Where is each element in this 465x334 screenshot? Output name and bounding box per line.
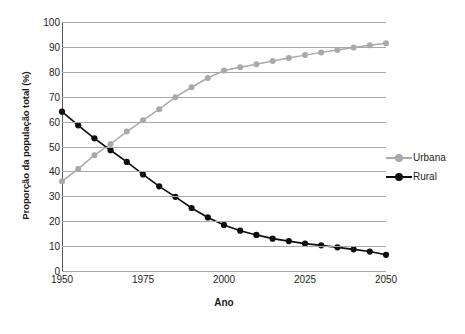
data-point-rural-1965[interactable] [108, 147, 114, 153]
data-point-urbana-2025[interactable] [302, 52, 308, 58]
data-point-urbana-2020[interactable] [286, 55, 292, 61]
data-point-rural-1995[interactable] [205, 214, 211, 220]
data-point-urbana-2015[interactable] [270, 58, 276, 64]
data-point-urbana-2010[interactable] [253, 61, 259, 67]
chart-figure: Proporção da população total (%) 0102030… [0, 0, 465, 334]
gridline-y-90 [62, 47, 386, 48]
x-tick-label-1975: 1975 [132, 274, 154, 285]
data-point-rural-2045[interactable] [367, 248, 373, 254]
gridline-y-100 [62, 22, 386, 23]
y-tick-label-50: 50 [34, 141, 60, 152]
gridline-y-20 [62, 221, 386, 222]
y-tick-label-70: 70 [34, 91, 60, 102]
gridline-y-40 [62, 171, 386, 172]
y-tick-label-20: 20 [34, 216, 60, 227]
legend-item-rural[interactable]: Rural [386, 167, 465, 186]
legend-marker-rural [386, 171, 412, 183]
data-point-rural-1980[interactable] [156, 183, 162, 189]
gridline-y-80 [62, 72, 386, 73]
legend-dot-urbana [395, 154, 403, 162]
data-point-urbana-1970[interactable] [124, 129, 130, 135]
legend-dot-rural [395, 173, 403, 181]
y-tick-label-30: 30 [34, 191, 60, 202]
gridline-y-0 [62, 271, 386, 272]
data-point-urbana-1950[interactable] [59, 178, 65, 184]
y-tick-label-40: 40 [34, 166, 60, 177]
data-point-rural-2020[interactable] [286, 238, 292, 244]
y-tick-label-80: 80 [34, 66, 60, 77]
series-line-rural [62, 112, 386, 255]
data-point-urbana-2050[interactable] [383, 40, 389, 46]
legend-item-urbana[interactable]: Urbana [386, 148, 465, 167]
data-point-urbana-1960[interactable] [91, 152, 97, 158]
y-tick-label-90: 90 [34, 41, 60, 52]
x-axis-tick-labels: 19501975200020252050 [62, 274, 386, 290]
data-point-urbana-1990[interactable] [189, 84, 195, 90]
x-tick-label-1950: 1950 [51, 274, 73, 285]
legend-label-rural: Rural [412, 171, 437, 182]
gridline-y-10 [62, 246, 386, 247]
data-point-rural-1955[interactable] [75, 122, 81, 128]
x-tick-label-2025: 2025 [294, 274, 316, 285]
data-point-urbana-1980[interactable] [156, 106, 162, 112]
data-point-rural-1990[interactable] [189, 205, 195, 211]
x-axis-title: Ano [62, 297, 386, 308]
plot-area [62, 22, 386, 271]
data-point-rural-1950[interactable] [59, 109, 65, 115]
legend-label-urbana: Urbana [412, 152, 446, 163]
y-tick-label-10: 10 [34, 241, 60, 252]
clipped-caption [8, 327, 308, 334]
data-point-rural-2005[interactable] [237, 228, 243, 234]
data-point-rural-1960[interactable] [91, 135, 97, 141]
data-point-rural-2000[interactable] [221, 222, 227, 228]
y-tick-label-100: 100 [34, 17, 60, 28]
series-line-urbana [62, 43, 386, 181]
x-tick-label-2050: 2050 [375, 274, 397, 285]
data-point-urbana-2005[interactable] [237, 64, 243, 70]
data-point-urbana-1995[interactable] [205, 75, 211, 81]
data-point-rural-2015[interactable] [270, 236, 276, 242]
gridline-y-50 [62, 147, 386, 148]
y-axis-title-text: Proporção da população total (%) [20, 71, 31, 219]
data-point-rural-1970[interactable] [124, 159, 130, 165]
gridline-y-30 [62, 196, 386, 197]
data-point-urbana-2030[interactable] [318, 49, 324, 55]
data-point-rural-2040[interactable] [351, 246, 357, 252]
y-tick-label-60: 60 [34, 116, 60, 127]
chart-legend: Urbana Rural [386, 148, 465, 186]
gridline-y-60 [62, 122, 386, 123]
data-point-rural-2010[interactable] [253, 232, 259, 238]
x-tick-label-2000: 2000 [213, 274, 235, 285]
gridline-y-70 [62, 97, 386, 98]
legend-marker-urbana [386, 152, 412, 164]
data-point-rural-2050[interactable] [383, 252, 389, 258]
